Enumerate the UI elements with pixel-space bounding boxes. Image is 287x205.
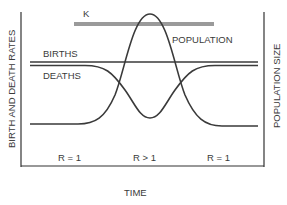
y-axis-label-right: POPULATION SIZE [271,44,282,128]
y-axis-label-left: BIRTH AND DEATH RATES [6,30,17,148]
r-center-label: R > 1 [133,152,156,163]
x-axis-label: TIME [124,187,147,198]
deaths-label: DEATHS [43,70,81,81]
population-label: POPULATION [172,34,233,45]
k-label: K [83,8,90,19]
r-left-label: R = 1 [58,152,81,163]
births-label: BIRTHS [43,48,78,59]
r-right-label: R = 1 [207,152,230,163]
chart: K POPULATION BIRTHS DEATHS R = 1 R > 1 R… [0,0,287,205]
